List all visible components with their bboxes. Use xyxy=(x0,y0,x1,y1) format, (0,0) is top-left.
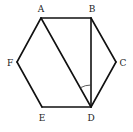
edge-bc xyxy=(91,18,116,62)
vertex-label-f: F xyxy=(7,58,13,68)
edge-ef xyxy=(17,62,42,107)
edge-fa xyxy=(17,18,41,62)
angle-adb-arc xyxy=(80,85,91,88)
hexagon-diagram: A B C D E F xyxy=(0,0,133,132)
diagonals xyxy=(41,18,91,107)
vertex-label-e: E xyxy=(39,113,46,123)
diagonal-ad xyxy=(41,18,91,107)
edge-cd xyxy=(91,62,116,107)
vertex-label-c: C xyxy=(120,58,127,68)
vertex-label-b: B xyxy=(89,4,96,14)
vertex-label-a: A xyxy=(37,4,45,14)
vertex-label-d: D xyxy=(87,113,94,123)
